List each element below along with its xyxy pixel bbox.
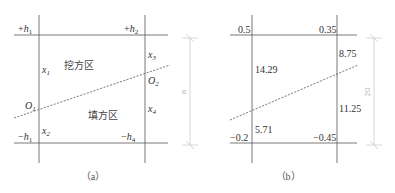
corner-label-bottom-left: −h1 <box>18 131 33 144</box>
dimension-label-20: 20 <box>363 87 372 96</box>
corner-label-bottom-right: −h4 <box>121 131 136 144</box>
dimension-label-a: a <box>179 89 188 94</box>
diagram-canvas: +h1 +h2 −h1 −h4 x1 x2 x3 x4 O1 O2 挖方区 填方… <box>0 0 395 193</box>
corner-value-top-left: 0.5 <box>238 24 251 35</box>
corner-value-bottom-right: −0.45 <box>313 132 336 143</box>
corner-label-top-left: +h1 <box>18 23 33 36</box>
segment-value-left-upper: 14.29 <box>255 64 278 75</box>
dimension-line-a: a <box>179 34 198 149</box>
region-label-cut: 挖方区 <box>64 59 94 71</box>
segment-value-right-upper: 8.75 <box>339 48 357 59</box>
figure-a: +h1 +h2 −h1 −h4 x1 x2 x3 x4 O1 O2 挖方区 填方… <box>14 15 198 182</box>
corner-label-top-right: +h2 <box>124 23 139 36</box>
figure-b: 0.5 0.35 −0.2 −0.45 14.29 5.71 8.75 11.2… <box>230 15 382 182</box>
segment-value-left-lower: 5.71 <box>255 124 273 135</box>
dimension-line-20: 20 <box>363 34 382 149</box>
region-label-fill: 填方区 <box>88 109 118 121</box>
caption-a: （a） <box>81 171 105 182</box>
segment-label-x1-left: x1 <box>41 64 50 77</box>
segment-label-x4: x4 <box>147 103 156 116</box>
segment-value-right-lower: 11.25 <box>339 103 361 114</box>
corner-value-top-right: 0.35 <box>319 24 337 35</box>
corner-value-bottom-left: −0.2 <box>230 132 248 143</box>
segment-label-x3: x3 <box>147 49 156 62</box>
segment-label-x2: x2 <box>41 125 50 138</box>
caption-b: （b） <box>276 171 301 182</box>
zero-point-o2: O2 <box>148 75 159 88</box>
zero-point-o1: O1 <box>25 100 36 113</box>
